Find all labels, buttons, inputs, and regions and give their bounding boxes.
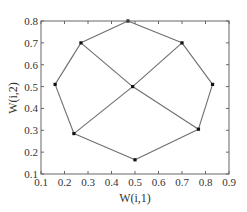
- x-tick-label: 0.9: [222, 176, 236, 188]
- y-tick-label: 0.7: [24, 37, 38, 49]
- y-tick-label: 0.3: [24, 124, 38, 136]
- network-edges: [55, 21, 212, 160]
- edge-line: [133, 87, 199, 130]
- node-marker-right: [211, 83, 214, 86]
- node-marker-bottom: [133, 158, 136, 161]
- edge-line: [81, 43, 133, 87]
- y-tick-label: 0.8: [24, 15, 38, 27]
- node-marker-lower-left: [72, 132, 75, 135]
- x-tick-label: 0.7: [175, 176, 189, 188]
- y-tick-label: 0.2: [24, 146, 38, 158]
- y-tick-label: 0.1: [24, 168, 38, 180]
- node-marker-lower-right: [197, 128, 200, 131]
- y-tick-label: 0.6: [24, 59, 38, 71]
- edge-line: [133, 43, 182, 87]
- x-tick-label: 0.4: [105, 176, 119, 188]
- y-axis: 0.10.20.30.40.50.60.70.8: [24, 15, 229, 180]
- y-tick-label: 0.4: [24, 102, 38, 114]
- edge-line: [198, 84, 212, 129]
- x-tick-label: 0.2: [58, 176, 72, 188]
- plot-area: [41, 21, 229, 174]
- network-nodes: [54, 19, 215, 161]
- edge-line: [55, 84, 74, 133]
- edge-line: [128, 21, 182, 43]
- x-tick-label: 0.6: [152, 176, 166, 188]
- node-marker-upper-left: [79, 41, 82, 44]
- x-tick-label: 0.3: [81, 176, 95, 188]
- edge-line: [74, 87, 133, 134]
- x-tick-label: 0.8: [199, 176, 213, 188]
- edge-line: [182, 43, 213, 85]
- edge-line: [74, 134, 135, 160]
- x-axis-label: W(i,1): [119, 191, 151, 205]
- edge-line: [55, 43, 81, 85]
- node-marker-center: [131, 85, 134, 88]
- x-tick-label: 0.5: [128, 176, 142, 188]
- edge-line: [135, 129, 198, 160]
- chart: 0.10.20.30.40.50.60.70.80.9 0.10.20.30.4…: [0, 0, 247, 212]
- node-marker-upper-right: [180, 41, 183, 44]
- y-tick-label: 0.5: [24, 81, 38, 93]
- y-axis-label: W(i,2): [6, 82, 20, 114]
- node-marker-left: [54, 83, 57, 86]
- edge-line: [81, 21, 128, 43]
